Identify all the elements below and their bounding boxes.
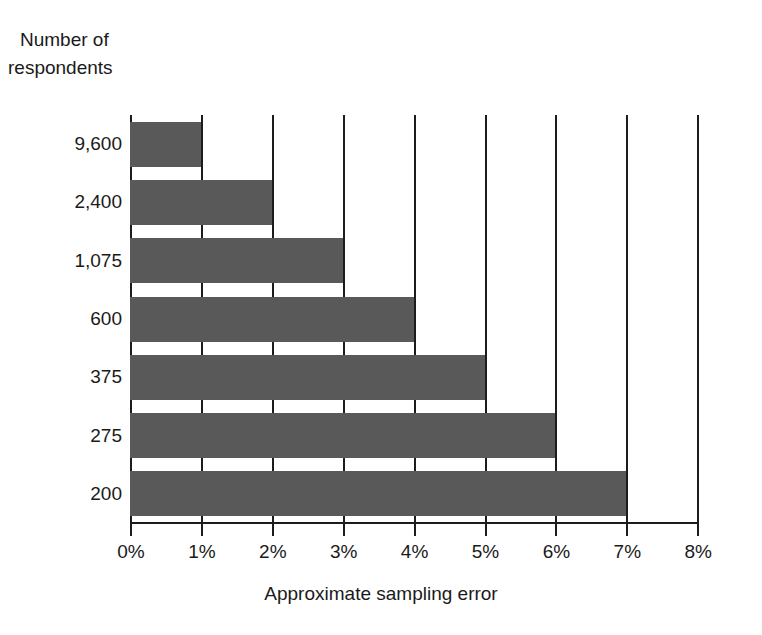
x-axis-tick-label: 8% xyxy=(668,540,728,564)
y-axis-tick-label: 1,075 xyxy=(2,250,122,272)
x-axis-tick-label: 2% xyxy=(243,540,303,564)
y-axis-tick-label: 2,400 xyxy=(2,191,122,213)
y-axis-tick-label: 600 xyxy=(2,308,122,330)
x-axis-tick xyxy=(272,523,274,536)
bar xyxy=(130,122,201,167)
x-axis-tick-label: 1% xyxy=(172,540,232,564)
x-axis-tick xyxy=(555,523,557,536)
x-axis-title: Approximate sampling error xyxy=(0,583,762,605)
x-axis-tick-label: 0% xyxy=(101,540,161,564)
gridline-7 xyxy=(626,115,628,523)
y-axis-title: Number of respondents xyxy=(8,26,113,82)
y-axis-tick-label: 375 xyxy=(2,366,122,388)
gridline-8 xyxy=(697,115,699,523)
gridline-5 xyxy=(485,115,487,523)
x-axis-tick-label: 4% xyxy=(385,540,445,564)
y-axis-title-line-1: Number of xyxy=(8,26,113,54)
gridline-6 xyxy=(555,115,557,523)
x-axis-tick-label: 5% xyxy=(456,540,516,564)
gridline-4 xyxy=(414,115,416,523)
x-axis-tick xyxy=(626,523,628,536)
bar xyxy=(130,238,343,283)
x-axis-tick xyxy=(697,523,699,536)
x-axis-tick-label: 3% xyxy=(314,540,374,564)
bar xyxy=(130,413,555,458)
y-axis-title-line-2: respondents xyxy=(8,54,113,82)
plot-area xyxy=(130,115,697,523)
x-axis-tick xyxy=(414,523,416,536)
y-axis-tick-labels: 9,6002,4001,075600375275200 xyxy=(0,115,122,523)
bar xyxy=(130,355,485,400)
x-axis-tick xyxy=(485,523,487,536)
x-axis-tick xyxy=(343,523,345,536)
bar xyxy=(130,297,414,342)
x-axis-tick xyxy=(201,523,203,536)
bar xyxy=(130,471,626,516)
x-axis-tick-label: 7% xyxy=(597,540,657,564)
y-axis-tick-label: 200 xyxy=(2,483,122,505)
y-axis-tick-label: 275 xyxy=(2,425,122,447)
y-axis-tick-label: 9,600 xyxy=(2,133,122,155)
x-axis-tick-label: 6% xyxy=(526,540,586,564)
x-axis-tick xyxy=(130,523,132,536)
bar xyxy=(130,180,272,225)
